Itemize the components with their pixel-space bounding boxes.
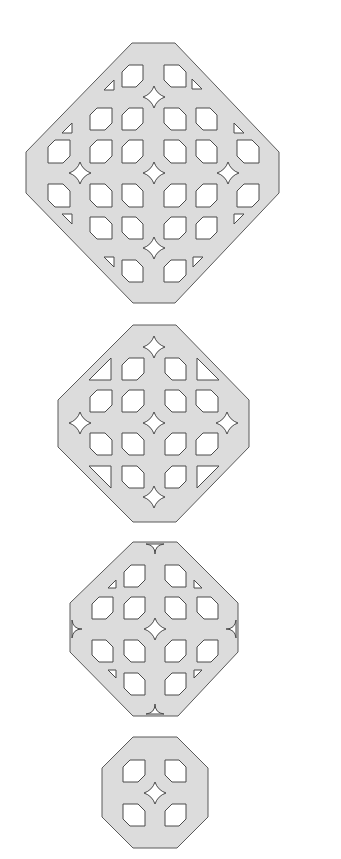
chamfered-square-hole [165, 597, 186, 619]
chamfered-square-hole [92, 597, 113, 619]
chamfered-square-hole [122, 184, 143, 207]
chamfered-square-hole [123, 804, 145, 826]
chamfered-square-hole [124, 640, 145, 662]
chamfered-square-hole [165, 804, 186, 826]
chamfered-square-hole [92, 640, 113, 662]
small-lattice-octagon [70, 542, 238, 716]
large-lattice-octagon [26, 43, 279, 303]
chamfered-square-hole [122, 140, 143, 163]
chamfered-square-hole [90, 390, 112, 412]
chamfered-square-hole [90, 217, 112, 239]
chamfered-square-hole [165, 565, 186, 587]
chamfered-square-hole [124, 597, 145, 619]
chamfered-square-hole [165, 673, 186, 695]
chamfered-square-hole [196, 184, 217, 207]
chamfered-square-hole [123, 760, 145, 782]
chamfered-square-hole [164, 217, 186, 239]
chamfered-square-hole [48, 184, 70, 207]
chamfered-square-hole [237, 184, 259, 207]
medium-lattice-octagon [58, 325, 249, 522]
chamfered-square-hole [196, 140, 217, 163]
chamfered-square-hole [122, 108, 143, 130]
chamfered-square-hole [122, 65, 143, 87]
chamfered-square-hole [90, 184, 112, 207]
chamfered-square-hole [237, 140, 259, 163]
chamfered-square-hole [48, 140, 70, 163]
chamfered-square-hole [165, 760, 186, 782]
tiny-lattice-octagon [102, 737, 208, 848]
chamfered-square-hole [164, 184, 186, 207]
chamfered-square-hole [90, 108, 112, 130]
chamfered-square-hole [122, 358, 144, 380]
chamfered-square-hole [122, 260, 143, 282]
chamfered-square-hole [164, 108, 186, 130]
chamfered-square-hole [164, 65, 186, 87]
chamfered-square-hole [124, 565, 145, 587]
chamfered-square-hole [165, 433, 186, 455]
chamfered-square-hole [122, 390, 144, 412]
lattice-tiles-figure [0, 0, 341, 859]
chamfered-square-hole [90, 140, 112, 163]
chamfered-square-hole [165, 358, 186, 380]
chamfered-square-hole [124, 673, 145, 695]
chamfered-square-hole [122, 466, 144, 488]
chamfered-square-hole [122, 433, 144, 455]
chamfered-square-hole [196, 217, 217, 239]
chamfered-square-hole [197, 640, 218, 662]
chamfered-square-hole [165, 390, 186, 412]
chamfered-square-hole [122, 217, 143, 239]
chamfered-square-hole [164, 140, 186, 163]
chamfered-square-hole [196, 390, 218, 412]
chamfered-square-hole [197, 597, 218, 619]
chamfered-square-hole [165, 466, 186, 488]
chamfered-square-hole [196, 433, 218, 455]
chamfered-square-hole [90, 433, 112, 455]
chamfered-square-hole [196, 108, 217, 130]
chamfered-square-hole [164, 260, 186, 282]
chamfered-square-hole [165, 640, 186, 662]
